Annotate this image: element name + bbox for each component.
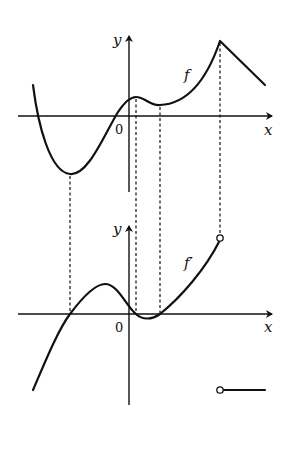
function-label-f: f bbox=[183, 66, 192, 84]
function-label-f-prime: f′ bbox=[183, 254, 194, 272]
function-derivative-diagram: y x 0 f y x 0 f′ bbox=[0, 0, 291, 453]
y-axis-label-bottom: y bbox=[112, 220, 122, 238]
origin-label-bottom: 0 bbox=[115, 320, 123, 335]
open-endpoint-f-prime bbox=[217, 235, 223, 241]
open-endpoint-right-segment bbox=[217, 387, 223, 393]
graph-f-prime: y x 0 f′ bbox=[18, 220, 273, 405]
y-axis-label-top: y bbox=[112, 31, 122, 49]
graph-f: y x 0 f bbox=[18, 31, 273, 192]
curve-f bbox=[33, 41, 265, 174]
x-axis-label-bottom: x bbox=[264, 318, 273, 336]
origin-label-top: 0 bbox=[115, 122, 123, 137]
x-axis-label-top: x bbox=[264, 121, 273, 139]
